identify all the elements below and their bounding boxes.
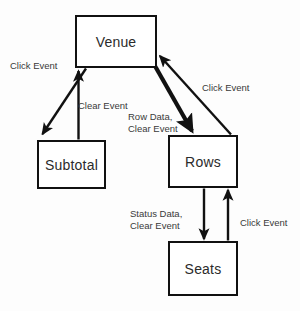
edge-label-rows-to-venue: Click Event [202, 82, 250, 94]
edge-label-line: Click Event [202, 82, 250, 94]
edge-label-line: Clear Event [78, 100, 128, 112]
diagram-canvas: Venue Subtotal Rows Seats Click Event Cl… [0, 0, 300, 311]
node-seats[interactable]: Seats [168, 241, 238, 296]
edge-label-line: Row Data, [128, 111, 178, 123]
node-subtotal[interactable]: Subtotal [37, 140, 106, 189]
node-rows[interactable]: Rows [168, 135, 238, 188]
node-seats-label: Seats [185, 261, 222, 277]
edge-label-line: Status Data, [130, 208, 182, 220]
edge-label-line: Click Event [240, 217, 288, 229]
edge-label-venue-to-subtotal: Click Event [10, 60, 58, 72]
edge-label-line: Click Event [10, 60, 58, 72]
edge-label-seats-to-rows: Click Event [240, 217, 288, 229]
edge-label-subtotal-to-venue: Clear Event [78, 100, 128, 112]
node-rows-label: Rows [185, 154, 221, 170]
edge-label-line: Clear Event [130, 220, 182, 232]
node-venue[interactable]: Venue [75, 15, 157, 68]
edge-label-venue-to-rows: Row Data, Clear Event [128, 111, 178, 134]
edge-label-rows-to-seats: Status Data, Clear Event [130, 208, 182, 231]
edge-label-line: Clear Event [128, 123, 178, 135]
node-venue-label: Venue [96, 34, 137, 50]
node-subtotal-label: Subtotal [45, 157, 98, 173]
